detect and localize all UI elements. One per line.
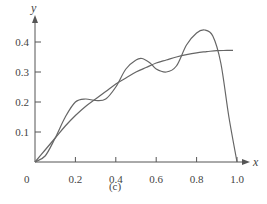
x-tick-label: 1.0 (230, 173, 244, 185)
smooth-curve-line (35, 50, 233, 162)
x-axis-arrow-icon (242, 159, 250, 165)
origin-label: 0 (24, 173, 30, 185)
y-tick-label: 0.2 (15, 96, 29, 108)
chart-caption: (c) (109, 180, 122, 193)
y-axis-label: y (30, 1, 37, 15)
y-ticks: 0.10.20.30.4 (15, 36, 41, 138)
series-group (35, 30, 237, 162)
y-axis-arrow-icon (32, 15, 38, 23)
x-tick-label: 0.2 (69, 173, 83, 185)
y-tick-label: 0.1 (15, 126, 29, 138)
x-tick-label: 0.8 (190, 173, 204, 185)
chart-canvas: 0.20.40.60.81.0 0.10.20.30.4 x y 0 (c) (0, 0, 267, 204)
y-tick-label: 0.3 (15, 66, 29, 78)
x-ticks: 0.20.40.60.81.0 (69, 157, 245, 185)
axes (32, 15, 250, 165)
oscillating-curve-line (35, 30, 237, 162)
x-axis-label: x (252, 155, 259, 169)
y-tick-label: 0.4 (15, 36, 29, 48)
x-tick-label: 0.6 (149, 173, 163, 185)
